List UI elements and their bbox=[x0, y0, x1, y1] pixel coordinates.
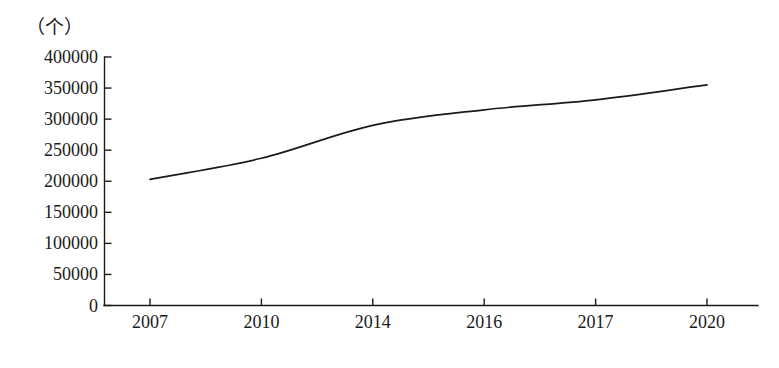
y-axis-tick-label: 400000 bbox=[6, 48, 98, 66]
x-axis-tick-label: 2010 bbox=[221, 313, 301, 331]
y-axis-tick-label: 0 bbox=[6, 297, 98, 315]
x-axis-tick-label: 2014 bbox=[333, 313, 413, 331]
x-axis-tick-marks bbox=[150, 299, 707, 306]
y-axis-tick-label: 200000 bbox=[6, 172, 98, 190]
y-axis-tick-label: 300000 bbox=[6, 110, 98, 128]
line-chart: （个） 050000100000150000200000250000300000… bbox=[0, 0, 779, 368]
x-axis bbox=[104, 299, 758, 306]
x-axis-tick-label: 2017 bbox=[556, 313, 636, 331]
x-axis-tick-label: 2007 bbox=[110, 313, 190, 331]
y-axis-tick-label: 250000 bbox=[6, 141, 98, 159]
y-axis-tick-label: 50000 bbox=[6, 265, 98, 283]
x-axis-tick-label: 2020 bbox=[667, 313, 747, 331]
y-axis bbox=[105, 57, 112, 306]
y-axis-tick-label: 350000 bbox=[6, 79, 98, 97]
y-axis-tick-marks bbox=[105, 57, 112, 306]
y-axis-tick-label: 150000 bbox=[6, 203, 98, 221]
x-axis-tick-label: 2016 bbox=[444, 313, 524, 331]
y-axis-tick-label: 100000 bbox=[6, 234, 98, 252]
data-series-line bbox=[150, 85, 707, 179]
